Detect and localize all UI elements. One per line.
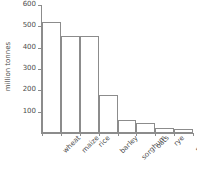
bar	[42, 22, 61, 133]
y-tick-label: 500	[23, 21, 36, 30]
bar-cell	[80, 5, 99, 133]
bar	[99, 95, 118, 133]
bar-cell	[61, 5, 80, 133]
y-tick-mark	[38, 90, 41, 91]
bar	[80, 36, 99, 133]
bar-cell	[42, 5, 61, 133]
bar-series	[42, 5, 193, 133]
y-tick-label: 200	[23, 85, 36, 94]
y-tick-mark	[38, 48, 41, 49]
y-axis-title: million tonnes	[2, 0, 14, 133]
y-tick-mark	[38, 26, 41, 27]
bar-cell	[155, 5, 174, 133]
y-tick-mark	[38, 112, 41, 113]
bar-chart: million tonnes 100200300400500600 wheatm…	[0, 0, 197, 169]
y-tick-label: 300	[23, 64, 36, 73]
bar-cell	[174, 5, 193, 133]
bar	[118, 120, 137, 133]
x-tick-label: millet	[194, 134, 197, 154]
bar-cell	[118, 5, 137, 133]
x-tick-mark	[193, 133, 194, 136]
x-tick-label: barley	[118, 134, 139, 155]
bar-cell	[99, 5, 118, 133]
bar-cell	[136, 5, 155, 133]
x-tick-label: oats	[154, 134, 170, 150]
x-tick-label: rice	[97, 134, 112, 149]
y-tick-label: 400	[23, 43, 36, 52]
y-tick-label: 600	[23, 0, 36, 9]
x-tick-label: wheat	[61, 134, 82, 155]
x-axis-labels: wheatmaizericebarleysorghumoatsryemillet	[42, 134, 193, 169]
plot-area: 100200300400500600	[42, 5, 193, 133]
bar	[61, 36, 80, 133]
x-tick-label: rye	[172, 134, 186, 148]
bar	[136, 123, 155, 133]
y-tick-mark	[38, 69, 41, 70]
y-tick-mark	[38, 5, 41, 6]
y-tick-label: 100	[23, 107, 36, 116]
